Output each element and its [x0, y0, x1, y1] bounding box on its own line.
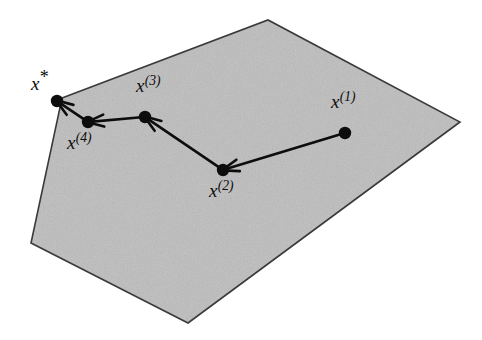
iterate-point-x1 [339, 127, 351, 139]
label-x4: x(4) [67, 133, 92, 152]
iterate-point-x3 [139, 111, 151, 123]
region-speckle-texture [31, 20, 460, 323]
label-x1-superscript: (1) [340, 89, 356, 104]
label-x2-variable: x [209, 180, 218, 201]
iterate-point-x4 [82, 116, 94, 128]
label-x2-superscript: (2) [218, 178, 234, 193]
figure-canvas: x(1)x(2)x(3)x(4)x* [0, 0, 482, 340]
label-xstar: x* [31, 74, 49, 93]
iterate-point-x2 [217, 164, 229, 176]
iterate-point-xstar [51, 95, 63, 107]
label-x4-superscript: (4) [76, 130, 92, 145]
diagram-svg [0, 0, 482, 340]
label-x3-variable: x [136, 75, 145, 96]
label-xstar-variable: x [31, 73, 40, 94]
label-xstar-superscript: * [40, 67, 49, 87]
region-group [31, 20, 460, 323]
label-x4-variable: x [67, 132, 76, 153]
label-x3-superscript: (3) [145, 73, 161, 88]
label-x2: x(2) [209, 181, 234, 200]
label-x1: x(1) [331, 92, 356, 111]
label-x1-variable: x [331, 91, 340, 112]
label-x3: x(3) [136, 76, 161, 95]
